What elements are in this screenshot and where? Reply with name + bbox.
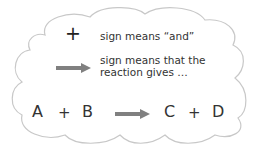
reactant-a: A (32, 104, 43, 120)
arrow-meaning-text-line1: sign means that the (100, 54, 206, 66)
product-c: C (164, 104, 175, 120)
reactant-b: B (82, 104, 93, 120)
reaction-arrow-icon (115, 109, 151, 119)
plus-sign-legend-symbol: + (65, 24, 81, 43)
equation-plus-2: + (188, 106, 201, 121)
plus-sign-meaning-text: sign means “and” (100, 30, 194, 42)
equation-plus-1: + (58, 106, 71, 121)
arrow-meaning-text-line2: reaction gives … (100, 66, 188, 78)
arrow-legend-icon (56, 63, 92, 73)
product-d: D (212, 104, 224, 120)
